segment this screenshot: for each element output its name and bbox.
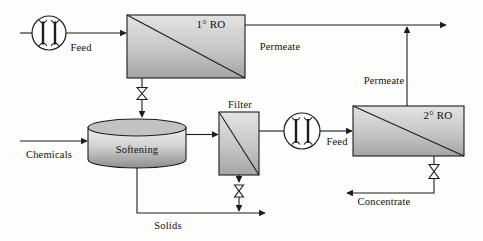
ro-1-unit xyxy=(127,15,245,78)
filter-label: Filter xyxy=(228,99,252,110)
valve-body xyxy=(429,165,439,179)
valve-icon xyxy=(235,185,244,197)
feed-1-label: Feed xyxy=(70,42,92,53)
permeate-1-label: Permeate xyxy=(260,41,301,52)
feed-2-label: Feed xyxy=(326,136,348,147)
pump-circle xyxy=(32,16,66,50)
concentrate-label: Concentrate xyxy=(358,196,411,207)
valve-body xyxy=(137,88,147,100)
chemicals-label: Chemicals xyxy=(26,149,72,160)
valve-icon xyxy=(137,88,147,100)
pump-icon xyxy=(32,16,66,50)
flow-diagram-canvas: Feed 1° RO Permeate Chemicals Softening … xyxy=(0,0,483,241)
tank-top xyxy=(88,119,186,136)
ro-1-label: 1° RO xyxy=(197,18,226,30)
valve-body xyxy=(235,185,244,197)
permeate-2-label: Permeate xyxy=(364,75,405,86)
ro-2-label: 2° RO xyxy=(424,109,453,121)
concentrate-line xyxy=(347,179,434,194)
filter-unit xyxy=(219,112,259,175)
softening-label: Softening xyxy=(116,144,159,155)
pump-icon xyxy=(284,113,320,149)
process-flow-diagram: Feed 1° RO Permeate Chemicals Softening … xyxy=(0,0,483,241)
valve-icon xyxy=(429,165,439,179)
solids-label: Solids xyxy=(154,220,181,231)
pump-circle xyxy=(284,113,320,149)
